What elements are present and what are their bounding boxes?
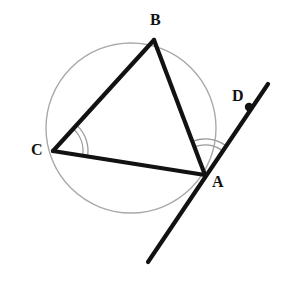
segment-ba (154, 40, 205, 175)
point-D-dot (245, 103, 253, 111)
geometry-figure: B C A D (0, 0, 281, 294)
segment-cb (53, 40, 154, 151)
vertex-label-c: C (31, 142, 43, 158)
angle-BAD-arc-2 (192, 139, 225, 145)
angle-BCA-arc-1 (73, 129, 83, 156)
vertex-label-b: B (150, 12, 161, 28)
point-dot-layer (245, 103, 253, 111)
vertex-label-a: A (212, 174, 224, 190)
angle-BAD-arc-1 (194, 145, 221, 150)
angle-arc-layer (73, 125, 225, 156)
angle-BCA-arc-2 (77, 125, 88, 156)
vertex-label-d: D (232, 88, 244, 104)
segment-ca (53, 151, 205, 175)
